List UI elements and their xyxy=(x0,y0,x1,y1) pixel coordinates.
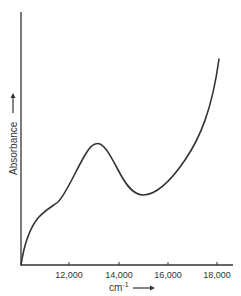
x-tick-label: 12,000 xyxy=(55,270,83,280)
y-axis-label: Absorbance xyxy=(8,121,19,175)
x-axis-label-base: cm xyxy=(109,282,122,293)
x-tick-label: 16,000 xyxy=(154,270,182,280)
x-axis-label-sup: -1 xyxy=(122,281,128,288)
x-tick-label: 18,000 xyxy=(203,270,231,280)
x-axis-label: cm-1 xyxy=(109,281,129,293)
absorbance-chart: 12,000 14,000 16,000 18,000 cm-1 Absorba… xyxy=(0,0,241,296)
y-arrow-icon xyxy=(11,93,16,113)
x-arrow-icon xyxy=(133,286,155,291)
x-tick-label: 14,000 xyxy=(105,270,133,280)
absorbance-curve xyxy=(21,59,219,265)
